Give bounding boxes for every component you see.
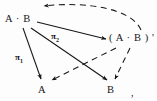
pi-1-subscript: 1	[20, 58, 23, 64]
edge-ab-to-a	[23, 28, 41, 79]
pi-2-subscript: 2	[56, 37, 59, 43]
node-label-a: A	[38, 85, 46, 96]
node-label-b: B	[107, 85, 115, 96]
edge-ab-prime-to-a	[52, 48, 116, 80]
edge-ab-to-b	[31, 28, 107, 80]
trailing-comma: ,	[131, 88, 134, 98]
arrow-label-pi-2: π2	[51, 32, 59, 43]
node-label-a-dot-b-prime: ( A · B ) '	[109, 33, 155, 44]
edge-ab-prime-to-b	[115, 48, 130, 79]
edge-ab-prime-to-ab	[44, 5, 141, 30]
edge-ab-to-ab-prime	[37, 22, 106, 39]
node-label-a-dot-b: A · B	[5, 14, 31, 25]
arrow-label-pi-1: π1	[15, 53, 23, 64]
commutative-diagram: A · B ( A · B ) ' A B π1 π2 ,	[0, 0, 157, 101]
